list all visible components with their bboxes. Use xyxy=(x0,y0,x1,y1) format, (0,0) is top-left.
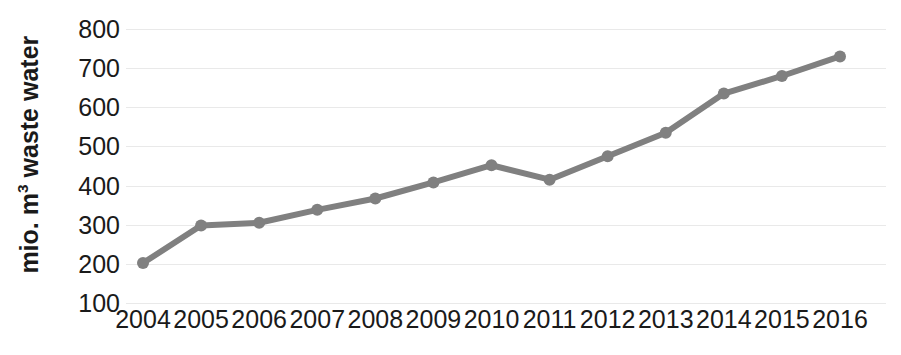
x-axis-tick-label: 2007 xyxy=(289,305,345,334)
y-axis-tick-label: 700 xyxy=(78,54,120,83)
y-axis-tick-label: 200 xyxy=(78,249,120,278)
data-point-marker xyxy=(137,257,149,269)
data-point-marker xyxy=(834,50,846,62)
x-axis-tick-label: 2010 xyxy=(464,305,520,334)
x-axis-tick-label: 2008 xyxy=(348,305,404,334)
data-point-marker xyxy=(486,159,498,171)
data-point-marker xyxy=(544,174,556,186)
y-axis-tick-label: 300 xyxy=(78,210,120,239)
x-axis-tick-label: 2012 xyxy=(580,305,636,334)
x-axis-tick-label: 2015 xyxy=(754,305,810,334)
data-point-marker xyxy=(369,192,381,204)
data-series-waste-water xyxy=(126,0,886,320)
y-axis-title-superscript: 3 xyxy=(14,185,31,194)
x-axis-tick-label: 2014 xyxy=(696,305,752,334)
line-chart: mio. m3 waste water 80070060050040030020… xyxy=(0,0,901,355)
data-point-marker xyxy=(253,217,265,229)
data-point-marker xyxy=(718,88,730,100)
data-point-marker xyxy=(660,127,672,139)
y-axis-tick-label: 600 xyxy=(78,93,120,122)
x-axis-tick-label: 2009 xyxy=(406,305,462,334)
x-axis-tick-label: 2016 xyxy=(812,305,868,334)
data-point-marker xyxy=(427,176,439,188)
y-axis-title: mio. m3 waste water xyxy=(0,0,58,310)
x-axis-tick-label: 2006 xyxy=(231,305,287,334)
x-axis-tick-label: 2004 xyxy=(115,305,171,334)
y-axis-title-main: mio. m xyxy=(15,193,43,274)
y-axis-tick-labels: 800700600500400300200100 xyxy=(58,0,126,320)
y-axis-tick-label: 500 xyxy=(78,132,120,161)
data-point-marker xyxy=(311,204,323,216)
data-point-marker xyxy=(195,220,207,232)
y-axis-tick-label: 800 xyxy=(78,15,120,44)
x-axis-tick-label: 2013 xyxy=(638,305,694,334)
x-axis-tick-label: 2005 xyxy=(173,305,229,334)
y-axis-tick-label: 100 xyxy=(78,289,120,318)
plot-area xyxy=(126,0,886,320)
x-axis-tick-labels: 2004200520062007200820092010201120122013… xyxy=(126,305,886,351)
y-axis-title-text: mio. m3 waste water xyxy=(14,36,43,274)
data-point-marker xyxy=(776,70,788,82)
y-axis-tick-label: 400 xyxy=(78,171,120,200)
y-axis-title-suffix: waste water xyxy=(15,36,43,185)
data-point-marker xyxy=(602,150,614,162)
x-axis-tick-label: 2011 xyxy=(523,305,577,334)
